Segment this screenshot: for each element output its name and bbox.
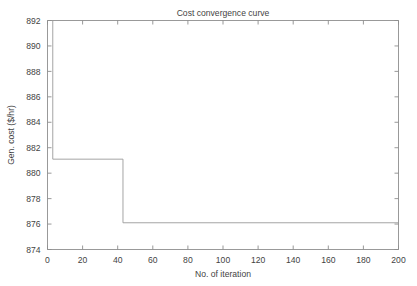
y-tick-label-876: 876 [26, 219, 41, 229]
x-tick-label-140: 140 [286, 255, 301, 265]
x-tick-label-0: 0 [45, 255, 50, 265]
y-tick-label-882: 882 [26, 143, 41, 153]
x-tick-label-100: 100 [216, 255, 231, 265]
y-tick-label-874: 874 [26, 245, 41, 255]
figure-container: 020406080100120140160180200 874876878880… [0, 0, 417, 286]
x-tick-label-120: 120 [251, 255, 266, 265]
y-tick-label-878: 878 [26, 194, 41, 204]
x-tick-label-60: 60 [148, 255, 158, 265]
x-tick-label-40: 40 [113, 255, 123, 265]
y-axis-label: Gen. cost ($/hr) [6, 105, 16, 165]
x-tick-label-80: 80 [183, 255, 193, 265]
chart-title: Cost convergence curve [177, 8, 270, 18]
y-tick-label-880: 880 [26, 168, 41, 178]
y-tick-label-884: 884 [26, 117, 41, 127]
x-tick-label-160: 160 [321, 255, 336, 265]
y-tick-label-890: 890 [26, 41, 41, 51]
x-tick-label-20: 20 [78, 255, 88, 265]
y-tick-label-892: 892 [26, 16, 41, 26]
x-tick-label-180: 180 [356, 255, 371, 265]
chart-background [0, 0, 417, 286]
y-tick-label-886: 886 [26, 92, 41, 102]
y-tick-label-888: 888 [26, 67, 41, 77]
x-axis-label: No. of iteration [195, 269, 251, 279]
x-tick-label-200: 200 [391, 255, 406, 265]
cost-convergence-chart: 020406080100120140160180200 874876878880… [0, 0, 417, 286]
